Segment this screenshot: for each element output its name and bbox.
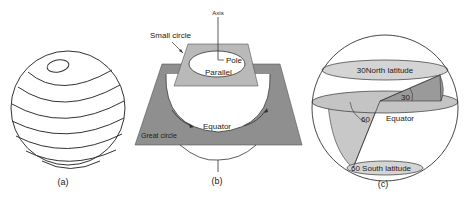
label-equator-c: Equator [386, 114, 414, 123]
panel-a-sphere [11, 51, 125, 169]
label-south-latitude: 60 South latitude [351, 164, 412, 173]
label-angle-60: 60 [361, 115, 370, 124]
diagram-canvas: (a) Axis Small circle Pole Parallel Equa… [0, 0, 464, 198]
panel-b-planes [135, 17, 302, 172]
label-equator-b: Equator [203, 122, 231, 131]
label-great-circle: Great circle [141, 132, 177, 139]
label-parallel: Parallel [205, 68, 232, 77]
caption-b: (b) [212, 176, 223, 186]
label-small-circle: Small circle [150, 31, 191, 40]
label-north-latitude: 30North latitude [357, 66, 414, 75]
label-pole: Pole [226, 56, 243, 65]
caption-a: (a) [58, 177, 69, 187]
panel-c-sphere [312, 35, 458, 181]
label-axis: Axis [212, 10, 223, 16]
label-angle-30: 30 [401, 93, 410, 102]
caption-c: (c) [378, 179, 389, 189]
